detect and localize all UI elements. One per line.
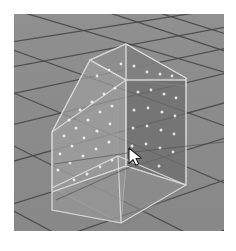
perspective-viewport[interactable] [14,14,224,231]
screenshot-root: 3D Viewport House translucent-shaded arr… [0,0,236,251]
scene-canvas[interactable] [14,14,224,231]
